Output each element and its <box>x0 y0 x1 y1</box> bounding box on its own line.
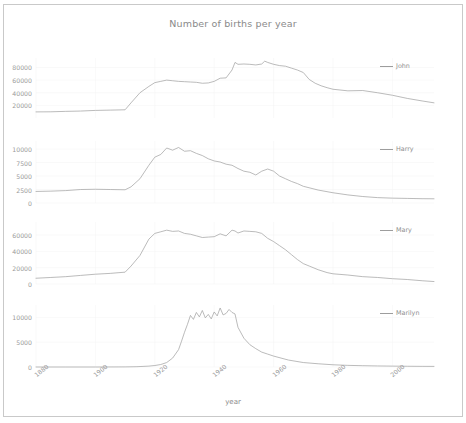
y-tick-label: 0 <box>0 200 32 207</box>
plot-area-harry <box>36 141 434 203</box>
legend-label: John <box>396 62 410 70</box>
legend-swatch-icon <box>380 66 393 67</box>
series-line-mary <box>36 230 434 281</box>
legend-marilyn[interactable]: Marilyn <box>380 309 419 317</box>
y-tick-label: 60000 <box>0 77 32 84</box>
y-tick-label: 5000 <box>0 173 32 180</box>
x-axis-label: year <box>0 398 466 406</box>
plot-area-marilyn <box>36 305 434 367</box>
y-tick-label: 60000 <box>0 232 32 239</box>
y-tick-label: 40000 <box>0 89 32 96</box>
legend-swatch-icon <box>380 230 393 231</box>
plot-area-john <box>36 58 434 118</box>
y-tick-label: 20000 <box>0 102 32 109</box>
legend-label: Marilyn <box>396 309 419 317</box>
y-tick-label: 10000 <box>0 146 32 153</box>
y-tick-label: 0 <box>0 364 32 371</box>
y-tick-label: 5000 <box>0 339 32 346</box>
series-line-john <box>36 61 434 112</box>
subplot-harry: 025005000750010000Harry <box>36 141 434 203</box>
subplot-john: 20000400006000080000John <box>36 58 434 118</box>
y-tick-label: 10000 <box>0 314 32 321</box>
y-tick-label: 0 <box>0 281 32 288</box>
legend-swatch-icon <box>380 313 393 314</box>
y-tick-label: 7500 <box>0 159 32 166</box>
series-line-marilyn <box>36 308 434 367</box>
plot-area-mary <box>36 222 434 284</box>
legend-swatch-icon <box>380 149 393 150</box>
subplot-mary: 0200004000060000Mary <box>36 222 434 284</box>
y-tick-label: 2500 <box>0 186 32 193</box>
legend-harry[interactable]: Harry <box>380 145 414 153</box>
legend-john[interactable]: John <box>380 62 410 70</box>
subplot-marilyn: 0500010000Marilyn <box>36 305 434 367</box>
legend-label: Harry <box>396 145 414 153</box>
series-line-harry <box>36 147 434 198</box>
y-tick-label: 20000 <box>0 264 32 271</box>
page-title: Number of births per year <box>0 18 466 29</box>
legend-mary[interactable]: Mary <box>380 226 412 234</box>
y-tick-label: 40000 <box>0 248 32 255</box>
legend-label: Mary <box>396 226 412 234</box>
chart-figure: Number of births per year 20000400006000… <box>0 0 466 423</box>
y-tick-label: 80000 <box>0 64 32 71</box>
